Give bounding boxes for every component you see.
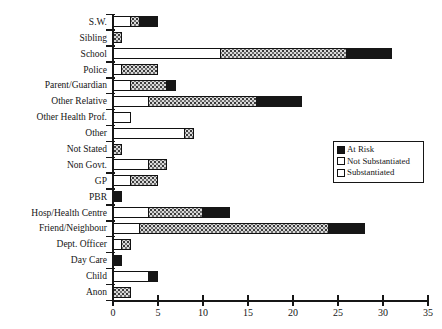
category-label: Child [0,271,111,281]
bar [112,96,302,107]
category-label: GP [0,176,111,186]
bar-segment-not_substantiated [112,144,122,155]
bar-segment-substantiated [112,159,149,170]
legend-label: Substantiated [347,168,394,177]
category-label: School [0,49,111,59]
bar-segment-not_substantiated [220,48,347,59]
bar-segment-not_substantiated [148,96,257,107]
category-label: Other Relative [0,96,111,106]
bar-row: Child [0,268,442,284]
y-axis-tick [106,61,115,63]
bar-segment-substantiated [112,223,140,234]
bar-segment-at_risk [148,271,158,282]
category-label: Day Care [0,255,111,265]
x-axis-tick-label: 30 [372,307,394,318]
category-label: Other [0,128,111,138]
category-label: S.W. [0,17,111,27]
bar-segment-not_substantiated [148,207,203,218]
y-axis-tick [106,252,115,254]
x-axis-tick-label: 20 [282,307,304,318]
x-axis-tick [202,295,204,306]
bar-segment-substantiated [112,48,221,59]
bar [112,223,365,234]
category-label: Sibling [0,33,111,43]
legend-entry: Substantiated [337,167,421,179]
bar [112,239,131,250]
y-axis-tick [106,204,115,206]
bar [112,255,122,266]
bar-segment-at_risk [112,255,122,266]
bar-segment-not_substantiated [112,287,131,298]
legend: At RiskNot SubstantiatedSubstantiated [333,141,424,183]
bar-segment-at_risk [256,96,302,107]
bar-row: Parent/Guardian [0,78,442,94]
bar [112,64,158,75]
bar [112,128,194,139]
bar-segment-at_risk [328,223,365,234]
category-label: PBR [0,192,111,202]
y-axis-tick [106,284,115,286]
y-axis-tick [106,268,115,270]
bar-segment-substantiated [112,96,149,107]
bar-segment-not_substantiated [121,239,131,250]
bar-chart: S.W.SiblingSchoolPoliceParent/GuardianOt… [0,0,442,329]
bar [112,287,131,298]
bar-segment-at_risk [112,191,122,202]
y-axis-tick [106,93,115,95]
bar-segment-substantiated [112,207,149,218]
category-label: Non Govt. [0,160,111,170]
bar-segment-at_risk [166,80,176,91]
bar [112,191,122,202]
bar-row: Police [0,62,442,78]
y-axis-tick [106,172,115,174]
category-label: Friend/Neighbour [0,223,111,233]
x-axis-tick-label: 5 [147,307,169,318]
bar-segment-substantiated [112,16,131,27]
bar-segment-not_substantiated [139,223,329,234]
category-label: Not Stated [0,144,111,154]
y-axis-tick [106,125,115,127]
y-axis-tick [106,300,115,302]
bar-segment-not_substantiated [148,159,167,170]
bar [112,48,392,59]
x-axis-tick [112,295,114,306]
bar-row: S.W. [0,14,442,30]
bar-row: Other [0,125,442,141]
x-axis-tick [292,295,294,306]
legend-entry: At Risk [337,144,421,156]
bar [112,32,122,43]
y-axis-tick [106,109,115,111]
plot-area: S.W.SiblingSchoolPoliceParent/GuardianOt… [0,0,442,329]
bar-row: Other Relative [0,93,442,109]
bar-segment-substantiated [112,271,149,282]
bar-row: Friend/Neighbour [0,221,442,237]
bar [112,16,158,27]
y-axis-tick [106,188,115,190]
category-label: Other Health Prof. [0,112,111,122]
bar-row: Other Health Prof. [0,109,442,125]
bar-segment-substantiated [112,80,131,91]
bar-row: Sibling [0,30,442,46]
bar-row: Hosp/Health Centre [0,205,442,221]
legend-marker-not_substantiated [337,157,345,165]
y-axis-tick [106,29,115,31]
bar-row: PBR [0,189,442,205]
bar-segment-substantiated [112,128,185,139]
bar [112,271,158,282]
y-axis-tick [106,77,115,79]
y-axis-tick [106,236,115,238]
x-axis-tick [382,295,384,306]
category-label: Dept. Officer [0,239,111,249]
bar [112,159,167,170]
legend-entry: Not Substantiated [337,156,421,168]
y-axis-tick [106,45,115,47]
bar-segment-at_risk [346,48,392,59]
bar [112,144,122,155]
bar-segment-substantiated [112,112,131,123]
category-label: Hosp/Health Centre [0,208,111,218]
x-axis-tick [337,295,339,306]
bar-segment-substantiated [112,175,131,186]
legend-marker-substantiated [337,169,345,177]
bar-segment-not_substantiated [121,64,158,75]
bar-segment-at_risk [139,16,158,27]
